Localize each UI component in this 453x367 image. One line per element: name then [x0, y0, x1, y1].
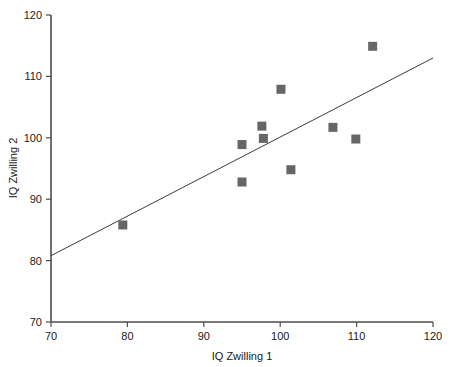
x-tick-label: 110 [348, 330, 366, 342]
x-tick-label: 80 [121, 330, 133, 342]
x-tick-label: 120 [424, 330, 442, 342]
data-point-marker [276, 85, 285, 94]
y-tick-label: 80 [30, 255, 42, 267]
data-point-marker [368, 42, 377, 51]
data-point-marker [238, 140, 247, 149]
x-tick-label: 100 [271, 330, 289, 342]
y-axis-title: IQ Zwilling 2 [7, 138, 19, 199]
y-tick-label: 70 [30, 316, 42, 328]
data-point-marker [259, 134, 268, 143]
x-tick-label: 90 [198, 330, 210, 342]
y-tick-label: 110 [24, 70, 42, 82]
scatter-plot-svg: 708090100110120 708090100110120 IQ Zwill… [0, 0, 453, 367]
trend-line [51, 58, 433, 256]
data-point-marker [118, 220, 127, 229]
y-tick-label: 100 [24, 132, 42, 144]
y-tick-label: 90 [30, 193, 42, 205]
data-point-marker [328, 123, 337, 132]
y-axis-tick-labels: 708090100110120 [24, 9, 42, 328]
scatter-chart-figure: 708090100110120 708090100110120 IQ Zwill… [0, 0, 453, 367]
y-tick-label: 120 [24, 9, 42, 21]
x-axis-title: IQ Zwilling 1 [212, 350, 273, 362]
data-point-markers [118, 42, 377, 230]
x-axis-tick-labels: 708090100110120 [45, 330, 442, 342]
data-point-marker [351, 135, 360, 144]
data-point-marker [286, 165, 295, 174]
data-point-marker [238, 178, 247, 187]
data-point-marker [257, 122, 266, 131]
x-tick-label: 70 [45, 330, 57, 342]
